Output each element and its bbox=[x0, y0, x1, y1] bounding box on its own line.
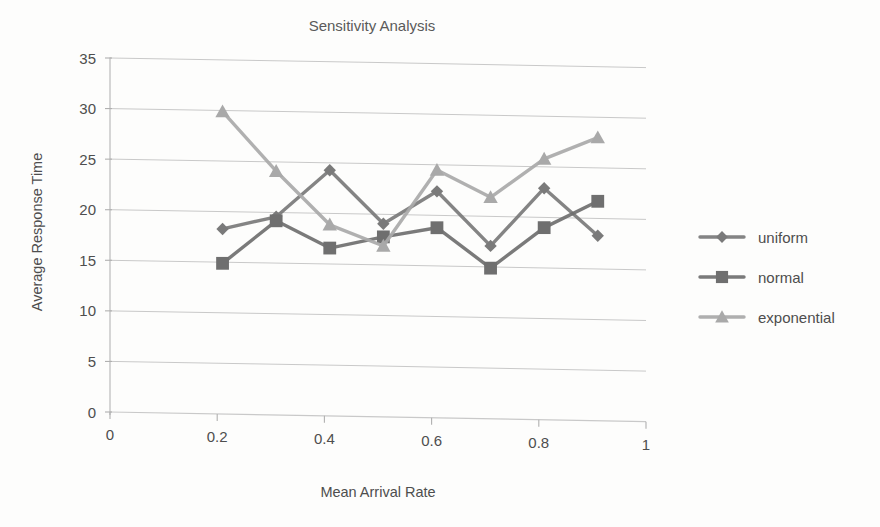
y-tick-label: 25 bbox=[79, 151, 96, 168]
legend-label: uniform bbox=[758, 229, 808, 246]
y-tick-label: 35 bbox=[79, 50, 96, 67]
x-tick-label: 1 bbox=[642, 436, 650, 453]
data-point-square-marker bbox=[591, 195, 604, 208]
legend-label: normal bbox=[758, 269, 804, 286]
data-point-square-marker bbox=[484, 262, 497, 275]
chart-title: Sensitivity Analysis bbox=[309, 17, 436, 34]
sensitivity-analysis-chart: 05101520253035 00.20.40.60.81 uniformnor… bbox=[0, 0, 880, 527]
data-point-square-marker bbox=[716, 271, 728, 283]
y-tick-label: 0 bbox=[88, 404, 96, 421]
y-tick-label: 20 bbox=[79, 201, 96, 218]
y-axis-label: Average Response Time bbox=[29, 153, 45, 312]
y-tick-label: 5 bbox=[88, 353, 96, 370]
x-tick-label: 0.6 bbox=[421, 432, 442, 449]
data-point-square-marker bbox=[270, 214, 283, 227]
x-axis-label: Mean Arrival Rate bbox=[320, 484, 435, 500]
data-point-square-marker bbox=[538, 221, 551, 234]
legend-label: exponential bbox=[758, 309, 835, 326]
chart-svg: 05101520253035 00.20.40.60.81 uniformnor… bbox=[0, 0, 880, 527]
x-tick-label: 0.2 bbox=[207, 428, 228, 445]
data-point-square-marker bbox=[323, 242, 336, 255]
y-tick-label: 15 bbox=[79, 252, 96, 269]
x-tick-label: 0.8 bbox=[528, 434, 549, 451]
x-tick-label: 0 bbox=[106, 426, 114, 443]
data-point-square-marker bbox=[431, 221, 444, 234]
y-tick-label: 30 bbox=[79, 100, 96, 117]
x-tick-label: 0.4 bbox=[314, 430, 335, 447]
data-point-square-marker bbox=[216, 257, 229, 270]
y-tick-label: 10 bbox=[79, 302, 96, 319]
